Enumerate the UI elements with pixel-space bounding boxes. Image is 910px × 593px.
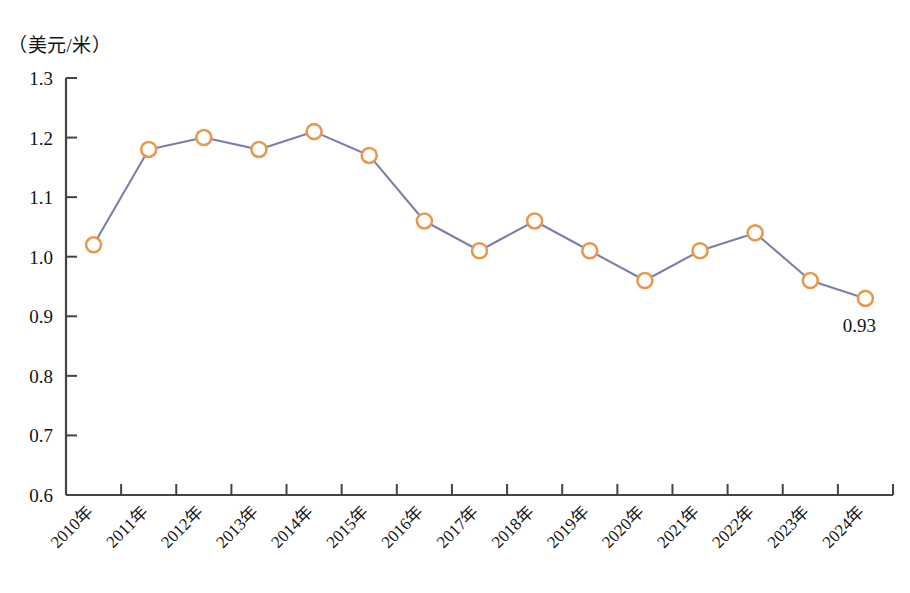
data-point-marker[interactable] <box>86 237 101 252</box>
data-point-marker[interactable] <box>858 291 873 306</box>
y-axis-tick-label: 1.3 <box>29 68 53 89</box>
chart-container: （美元/米） 1.31.21.11.00.90.80.70.62010年2011… <box>0 0 910 593</box>
x-axis-tick-label: 2015年 <box>323 502 372 551</box>
data-point-marker[interactable] <box>196 130 211 145</box>
series-line <box>94 132 866 299</box>
data-point-marker[interactable] <box>362 148 377 163</box>
x-axis-tick-label: 2017年 <box>433 502 482 551</box>
y-axis-tick-label: 1.1 <box>29 187 53 208</box>
x-axis-tick-label: 2011年 <box>102 502 151 551</box>
data-point-marker[interactable] <box>307 124 322 139</box>
x-axis-tick-label: 2010年 <box>47 502 96 551</box>
x-axis-tick-label: 2020年 <box>598 502 647 551</box>
x-axis-tick-label: 2016年 <box>378 502 427 551</box>
x-axis-tick-label: 2012年 <box>157 502 206 551</box>
y-axis-tick-label: 0.7 <box>29 425 53 446</box>
y-axis-tick-label: 0.9 <box>29 306 53 327</box>
data-point-value-label: 0.93 <box>843 315 876 336</box>
data-point-marker[interactable] <box>251 142 266 157</box>
y-axis-tick-label: 0.8 <box>29 366 53 387</box>
x-axis-tick-label: 2024年 <box>819 502 868 551</box>
data-point-marker[interactable] <box>141 142 156 157</box>
line-chart-plot: 1.31.21.11.00.90.80.70.62010年2011年2012年2… <box>0 0 910 593</box>
x-axis-tick-label: 2022年 <box>708 502 757 551</box>
data-point-marker[interactable] <box>803 273 818 288</box>
data-point-marker[interactable] <box>693 243 708 258</box>
x-axis-tick-label: 2021年 <box>653 502 702 551</box>
data-point-marker[interactable] <box>417 213 432 228</box>
x-axis-tick-label: 2023年 <box>764 502 813 551</box>
x-axis-tick-label: 2013年 <box>212 502 261 551</box>
y-axis-tick-label: 1.0 <box>29 247 53 268</box>
x-axis-tick-label: 2019年 <box>543 502 592 551</box>
data-point-marker[interactable] <box>748 225 763 240</box>
data-point-marker[interactable] <box>582 243 597 258</box>
data-point-marker[interactable] <box>472 243 487 258</box>
data-point-marker[interactable] <box>527 213 542 228</box>
y-axis-tick-label: 0.6 <box>29 485 53 506</box>
data-point-marker[interactable] <box>637 273 652 288</box>
x-axis-tick-label: 2018年 <box>488 502 537 551</box>
y-axis-tick-label: 1.2 <box>29 128 53 149</box>
x-axis-tick-label: 2014年 <box>267 502 316 551</box>
